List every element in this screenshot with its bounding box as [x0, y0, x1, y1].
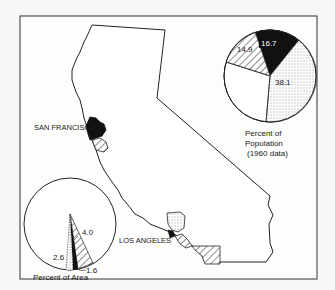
area-value-4-0: 4.0	[82, 228, 94, 237]
population-pie-chart: 16.7 38.1 14.9	[224, 30, 317, 123]
los-angeles-label: LOS ANGELES	[119, 236, 171, 245]
san-francisco-label: SAN FRANCISCO	[34, 123, 96, 132]
population-title-line2: Population	[245, 139, 283, 148]
area-value-2-6: 2.6	[53, 253, 65, 262]
california-population-area-figure: SAN FRANCISCO LOS ANGELES 16.7 38.1 14.9…	[0, 0, 335, 290]
population-value-38-1: 38.1	[275, 78, 291, 87]
area-title: Percent of Area	[33, 273, 89, 282]
population-value-16-7: 16.7	[261, 39, 277, 48]
population-value-14-9: 14.9	[237, 45, 253, 54]
population-title-line1: Percent of	[245, 129, 282, 138]
population-title-line3: (1960 data)	[247, 149, 288, 158]
